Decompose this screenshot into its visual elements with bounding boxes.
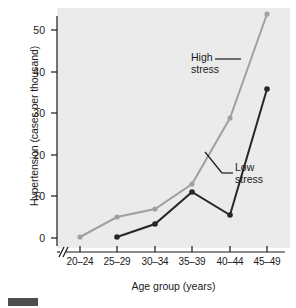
data-point <box>152 221 158 227</box>
data-point <box>77 234 82 239</box>
annotation-low-stress-line2: stress <box>235 174 263 186</box>
annotation-low-stress: Low stress <box>235 162 263 185</box>
leader-line-low-stress-hook <box>205 152 222 173</box>
data-point <box>227 115 232 120</box>
series-points-high-stress <box>77 11 269 239</box>
annotation-high-stress-line2: stress <box>191 64 219 76</box>
y-axis-ticks <box>51 30 57 238</box>
data-point <box>114 214 119 219</box>
annotation-high-stress: High stress <box>191 52 219 75</box>
data-point <box>114 234 120 240</box>
data-point <box>227 212 233 218</box>
x-axis-title: Age group (years) <box>57 280 290 292</box>
data-point <box>264 11 269 16</box>
annotation-low-stress-line1: Low <box>235 162 263 174</box>
data-point <box>189 181 194 186</box>
x-axis-ticks <box>80 246 267 252</box>
data-point <box>264 86 270 92</box>
x-tick-label-45-49: 45–49 <box>244 256 290 267</box>
series-line-high-stress <box>80 14 267 237</box>
annotation-high-stress-line1: High <box>191 52 219 64</box>
figure-container: Hypertension (cases per thousand) 50 40 … <box>0 0 296 308</box>
data-point <box>189 189 195 195</box>
corner-tab-mark <box>8 298 38 306</box>
data-point <box>152 206 157 211</box>
